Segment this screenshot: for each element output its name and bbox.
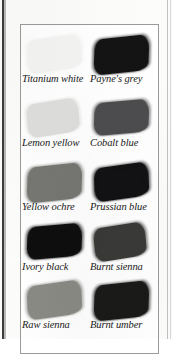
paint-stroke-swatch bbox=[93, 221, 147, 263]
swatch-cell-titanium-white[interactable]: Titanium white bbox=[22, 37, 90, 103]
swatch-label: Raw sienna bbox=[22, 319, 94, 331]
swatch-label: Ivory black bbox=[22, 261, 94, 273]
swatch-label: Cobalt blue bbox=[90, 137, 159, 149]
paint-stroke-swatch bbox=[26, 97, 80, 139]
page-right-edge-line bbox=[167, 0, 168, 339]
swatch-cell-lemon-yellow[interactable]: Lemon yellow bbox=[22, 101, 90, 167]
paint-stroke-swatch bbox=[94, 34, 150, 76]
page-gutter-shadow bbox=[4, 0, 6, 339]
swatch-label: Prussian blue bbox=[90, 201, 159, 213]
swatch-cell-prussian-blue[interactable]: Prussian blue bbox=[89, 165, 157, 231]
swatch-label: Titanium white bbox=[22, 73, 94, 85]
swatch-cell-raw-sienna[interactable]: Raw sienna bbox=[22, 283, 90, 349]
paint-stroke-swatch bbox=[94, 280, 150, 322]
swatch-chart-frame: Titanium white Payne's grey Lemon yellow… bbox=[20, 24, 159, 354]
swatch-cell-yellow-ochre[interactable]: Yellow ochre bbox=[22, 165, 90, 231]
swatch-cell-burnt-umber[interactable]: Burnt umber bbox=[89, 283, 157, 349]
paint-stroke-swatch bbox=[27, 162, 83, 204]
swatch-label: Burnt umber bbox=[90, 319, 159, 331]
swatch-cell-paynes-grey[interactable]: Payne's grey bbox=[89, 37, 157, 103]
swatch-label: Burnt sienna bbox=[90, 261, 159, 273]
paint-stroke-swatch bbox=[27, 33, 83, 75]
swatch-label: Yellow ochre bbox=[22, 201, 94, 213]
paint-stroke-swatch bbox=[27, 222, 83, 260]
paint-stroke-swatch bbox=[94, 161, 150, 203]
page-right-edge-line-outer bbox=[170, 0, 171, 339]
paint-stroke-swatch bbox=[27, 279, 83, 321]
swatch-label: Lemon yellow bbox=[22, 137, 94, 149]
swatch-cell-cobalt-blue[interactable]: Cobalt blue bbox=[89, 101, 157, 167]
paint-stroke-swatch bbox=[94, 98, 150, 136]
swatch-label: Payne's grey bbox=[90, 73, 159, 85]
swatch-grid: Titanium white Payne's grey Lemon yellow… bbox=[21, 25, 158, 353]
